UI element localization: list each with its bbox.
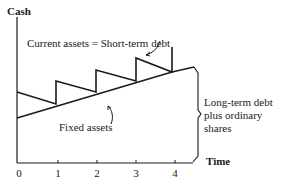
x-axis-label: Time	[206, 155, 230, 167]
fixed-assets-annotation: Fixed assets	[59, 121, 112, 133]
x-tick-label-4: 4	[169, 167, 181, 179]
x-tick-label-3: 3	[130, 167, 142, 179]
diagram-canvas	[0, 0, 282, 186]
current-assets-annotation: Current assets = Short-term debt	[27, 37, 170, 49]
long-term-brace	[193, 67, 201, 162]
x-tick-label-2: 2	[91, 167, 103, 179]
fixed-assets-line	[17, 72, 172, 118]
total-assets-line	[172, 67, 194, 72]
y-axis-label: Cash	[7, 5, 31, 17]
long-term-annotation: Long-term debt plus ordinary shares	[204, 96, 273, 135]
cash-financing-diagram: Cash Time Current assets = Short-term de…	[0, 0, 282, 186]
x-tick-label-1: 1	[52, 167, 64, 179]
x-tick-label-0: 0	[13, 167, 25, 179]
